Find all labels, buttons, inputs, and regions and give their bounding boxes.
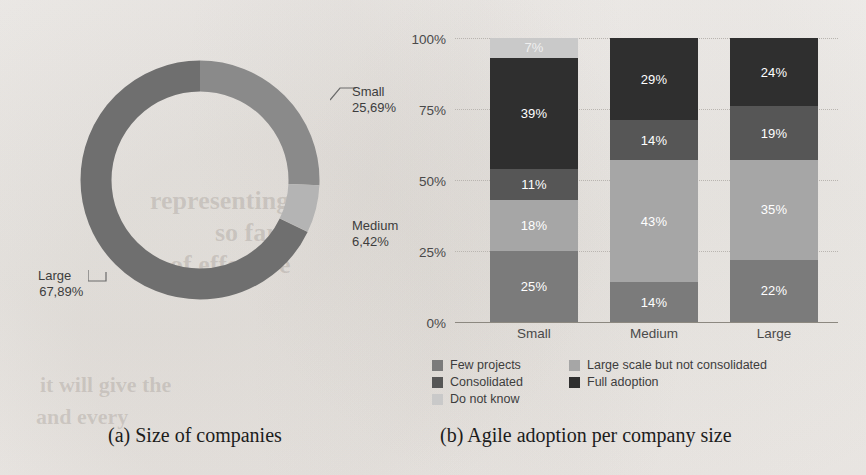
caption-panel-b: (b) Agile adoption per company size xyxy=(440,424,732,447)
xtick-label-large: Large xyxy=(730,326,818,341)
bar-large-seg-full-adoption[interactable]: 24% xyxy=(730,38,818,106)
donut-label-large: Large 67,89% xyxy=(38,268,83,300)
bar-large-seg-large-scale[interactable]: 35% xyxy=(730,160,818,259)
bar-medium[interactable]: 29% 14% 43% 14% xyxy=(610,38,698,322)
bar-medium-value-consolidated: 14% xyxy=(641,133,668,148)
legend-item-few-projects[interactable]: Few projects xyxy=(432,357,523,373)
donut-label-medium: Medium 6,42% xyxy=(352,218,398,250)
bar-small-seg-full-adoption[interactable]: 39% xyxy=(490,58,578,169)
donut-chart xyxy=(68,48,332,312)
legend-swatch-full-adoption xyxy=(569,377,580,388)
bar-small-seg-consolidated[interactable]: 11% xyxy=(490,169,578,200)
legend-item-do-not-know[interactable]: Do not know xyxy=(432,391,523,407)
ytick-label-100: 100% xyxy=(411,32,446,47)
legend-item-large-scale-not-consolidated[interactable]: Large scale but not consolidated xyxy=(569,357,767,373)
xtick-label-medium: Medium xyxy=(610,326,698,341)
bar-chart-plot-area: 100% 75% 50% 25% 0% 7% 39% 11% 18% xyxy=(455,38,830,322)
legend-label-few-projects: Few projects xyxy=(450,357,521,373)
ytick-label-50: 50% xyxy=(419,174,446,189)
donut-label-small: Small 25,69% xyxy=(352,84,396,116)
ytick-label-25: 25% xyxy=(419,245,446,260)
caption-panel-a: (a) Size of companies xyxy=(108,424,282,447)
bar-medium-value-large-scale: 43% xyxy=(641,214,668,229)
bar-medium-seg-large-scale[interactable]: 43% xyxy=(610,160,698,282)
ytick-label-75: 75% xyxy=(419,103,446,118)
donut-label-medium-name: Medium xyxy=(352,218,398,234)
bar-medium-seg-consolidated[interactable]: 14% xyxy=(610,120,698,160)
donut-label-small-name: Small xyxy=(352,84,396,100)
donut-label-large-value: 67,89% xyxy=(38,284,83,300)
legend-item-full-adoption[interactable]: Full adoption xyxy=(569,374,767,390)
legend-swatch-consolidated xyxy=(432,377,443,388)
bar-small-seg-few-projects[interactable]: 25% xyxy=(490,251,578,322)
legend-swatch-do-not-know xyxy=(432,394,443,405)
bar-small[interactable]: 7% 39% 11% 18% 25% xyxy=(490,38,578,322)
bar-medium-value-few-projects: 14% xyxy=(641,295,668,310)
bar-large-value-consolidated: 19% xyxy=(761,126,788,141)
legend-label-consolidated: Consolidated xyxy=(450,374,523,390)
bar-large-value-few-projects: 22% xyxy=(761,283,788,298)
bar-large-value-full-adoption: 24% xyxy=(761,65,788,80)
donut-label-large-name: Large xyxy=(38,268,83,284)
legend-swatch-few-projects xyxy=(432,360,443,371)
panel-size-of-companies: Small 25,69% Medium 6,42% Large 67,89% xyxy=(0,0,430,475)
legend-item-consolidated[interactable]: Consolidated xyxy=(432,374,523,390)
bar-large-value-large-scale: 35% xyxy=(761,202,788,217)
bar-medium-seg-full-adoption[interactable]: 29% xyxy=(610,38,698,120)
bar-large[interactable]: 24% 19% 35% 22% xyxy=(730,38,818,322)
bar-medium-value-full-adoption: 29% xyxy=(641,72,668,87)
bar-small-value-do-not-know: 7% xyxy=(524,40,543,55)
legend-label-do-not-know: Do not know xyxy=(450,391,519,407)
bar-small-seg-large-scale[interactable]: 18% xyxy=(490,200,578,251)
legend-swatch-large-scale-not-consolidated xyxy=(569,360,580,371)
bar-small-value-full-adoption: 39% xyxy=(521,106,548,121)
ytick-label-0: 0% xyxy=(426,316,446,331)
legend-label-full-adoption: Full adoption xyxy=(587,374,659,390)
bar-large-seg-consolidated[interactable]: 19% xyxy=(730,106,818,160)
bar-large-seg-few-projects[interactable]: 22% xyxy=(730,260,818,322)
bar-small-value-consolidated: 11% xyxy=(521,177,547,192)
donut-label-medium-value: 6,42% xyxy=(352,234,398,250)
bar-small-value-few-projects: 25% xyxy=(521,279,548,294)
xtick-label-small: Small xyxy=(490,326,578,341)
donut-label-small-value: 25,69% xyxy=(352,100,396,116)
legend-column-1: Few projects Consolidated Do not know xyxy=(432,357,523,408)
bar-small-value-large-scale: 18% xyxy=(521,218,548,233)
legend-column-2: Large scale but not consolidated Full ad… xyxy=(569,357,767,391)
bar-small-seg-do-not-know[interactable]: 7% xyxy=(490,38,578,58)
bar-medium-seg-few-projects[interactable]: 14% xyxy=(610,282,698,322)
axis-baseline-0: 0% xyxy=(455,322,838,323)
legend-label-large-scale-not-consolidated: Large scale but not consolidated xyxy=(587,357,767,373)
